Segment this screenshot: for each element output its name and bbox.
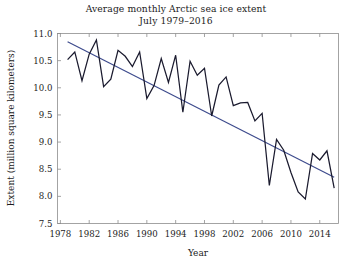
x-tick-label: 1978	[49, 229, 71, 239]
y-tick-label: 10.5	[33, 56, 52, 66]
x-axis-title: Year	[187, 248, 209, 258]
y-tick-label: 9.0	[39, 137, 53, 147]
y-tick-label: 9.5	[39, 110, 53, 120]
data-line-series	[68, 40, 335, 199]
x-tick-label: 2002	[222, 229, 244, 239]
sea-ice-extent-line	[68, 40, 335, 199]
trend-line	[68, 42, 335, 178]
x-tick-label: 1986	[107, 229, 129, 239]
x-axis-ticks: 1978198219861990199419982002200620102014	[49, 34, 331, 239]
y-tick-label: 7.5	[39, 219, 53, 229]
y-axis-title: Extent (million square kilometers)	[6, 50, 16, 206]
y-tick-label: 11.0	[33, 29, 52, 39]
trend-line-series	[68, 42, 335, 178]
x-tick-label: 2006	[251, 229, 273, 239]
chart-plot-area: 7.58.08.59.09.510.010.511.0 197819821986…	[0, 0, 352, 265]
x-tick-label: 1990	[136, 229, 158, 239]
x-tick-label: 2014	[309, 229, 331, 239]
y-tick-label: 8.0	[39, 191, 53, 201]
x-tick-label: 2010	[280, 229, 302, 239]
y-tick-label: 8.5	[39, 164, 53, 174]
chart-figure: Average monthly Arctic sea ice extent Ju…	[0, 0, 352, 265]
x-tick-label: 1982	[78, 229, 100, 239]
x-tick-label: 1998	[194, 229, 216, 239]
y-tick-label: 10.0	[33, 83, 52, 93]
y-axis-ticks: 7.58.08.59.09.510.010.511.0	[33, 29, 61, 229]
x-tick-label: 1994	[165, 229, 187, 239]
